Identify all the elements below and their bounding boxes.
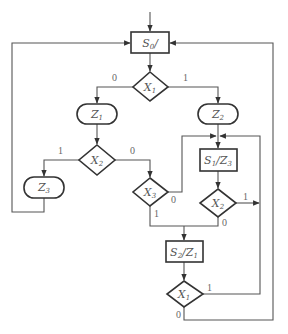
asm-chart: S0/ X1 Z1 Z2 X2 Z3 X3 S1/Z3 X2 (0, 0, 288, 334)
label-x2-right-0: 0 (222, 217, 227, 228)
decision-x1-bottom: X1 (167, 281, 203, 307)
edge-x1-z2 (168, 87, 218, 103)
label-x3-1: 1 (154, 208, 159, 219)
decision-x2-left: X2 (79, 145, 115, 175)
label-x1-top-1: 1 (183, 72, 188, 83)
label-x2-left-0: 0 (130, 145, 135, 156)
label-x1-bottom-0: 0 (176, 309, 181, 320)
label-x3-0: 0 (171, 194, 176, 205)
label-x1-top-0: 0 (112, 72, 117, 83)
edge-x2-z3 (44, 160, 79, 176)
edge-x1b-s0 (170, 43, 273, 320)
label-x1-bottom-1: 1 (207, 282, 212, 293)
state-s1: S1/Z3 (200, 149, 237, 171)
label-x2-right-1: 1 (243, 191, 248, 202)
label-x2-left-1: 1 (58, 145, 63, 156)
edge-x2-x3 (115, 160, 150, 177)
decision-x1-top: X1 (133, 72, 168, 101)
edge-x1-z1 (97, 87, 133, 103)
output-z2: Z2 (198, 104, 238, 124)
output-z3: Z3 (24, 177, 64, 198)
decision-x3: X3 (133, 178, 168, 206)
output-z1: Z1 (77, 104, 117, 124)
decision-x2-right: X2 (200, 189, 236, 217)
state-s0: S0/ (131, 32, 169, 53)
state-s2: S2/Z1 (166, 241, 203, 262)
